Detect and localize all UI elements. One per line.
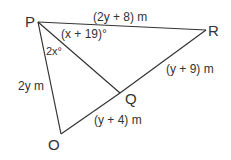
edge-label-op: 2y m — [18, 79, 44, 93]
triangle-diagram: P R Q O (2y + 8) m (y + 9) m (y + 4) m 2… — [0, 0, 231, 160]
vertex-label-o: O — [48, 136, 60, 153]
vertex-label-r: R — [208, 22, 219, 39]
edge-label-rq: (y + 9) m — [166, 62, 214, 76]
angle-label-qpr: (x + 19)° — [61, 27, 107, 41]
edge-label-qo: (y + 4) m — [94, 113, 142, 127]
vertex-label-q: Q — [125, 90, 137, 107]
edge-label-pr: (2y + 8) m — [93, 10, 147, 24]
vertex-label-p: P — [25, 13, 35, 30]
angle-label-opq: 2x° — [46, 45, 62, 57]
